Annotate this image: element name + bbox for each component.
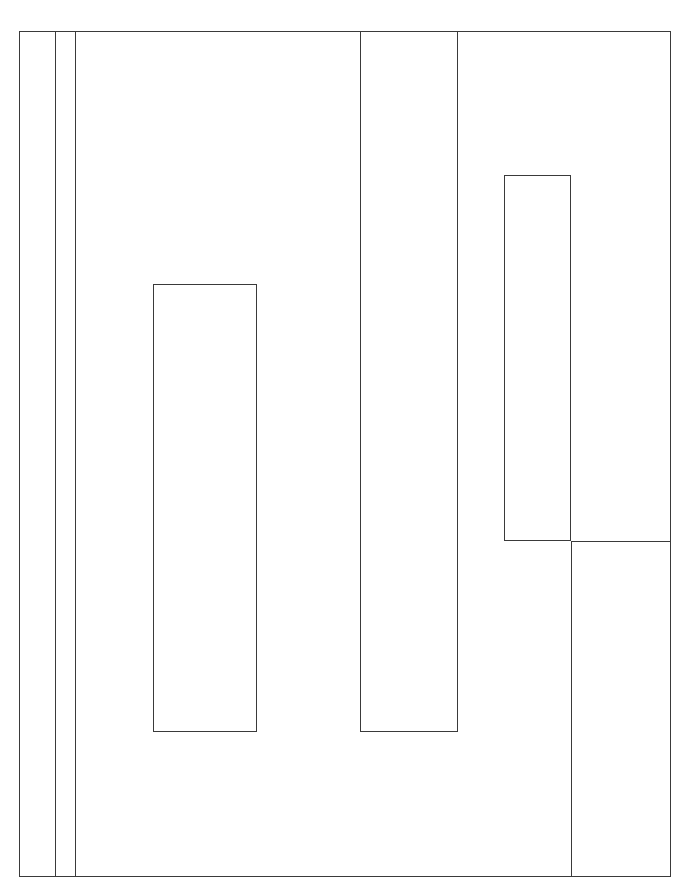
outer-frame: [19, 31, 671, 877]
right-horizontal-line: [571, 541, 671, 542]
center-tall-rect: [360, 31, 458, 732]
left-strip-line-1: [55, 31, 56, 877]
right-lower-vline: [571, 541, 572, 877]
left-strip-line-2: [75, 31, 76, 877]
right-upper-rect: [504, 175, 571, 541]
left-inner-rect: [153, 284, 257, 732]
